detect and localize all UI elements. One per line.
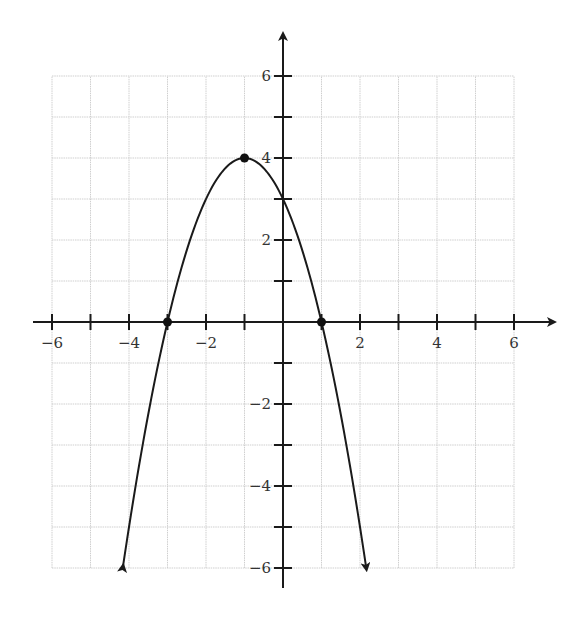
y-tick-label: 6 xyxy=(261,67,271,85)
x-intercept-right-point xyxy=(317,318,326,327)
x-intercept-left-point xyxy=(163,318,172,327)
coordinate-plane: −6−4−2246642−2−4−6 xyxy=(0,0,580,618)
x-tick-label: −4 xyxy=(118,334,140,352)
vertex-point xyxy=(240,154,249,163)
y-tick-label: 4 xyxy=(261,149,271,167)
x-tick-label: 2 xyxy=(355,334,365,352)
y-tick-label: −6 xyxy=(249,559,271,577)
y-tick-label: −2 xyxy=(249,395,271,413)
x-tick-label: 6 xyxy=(509,334,519,352)
x-tick-label: 4 xyxy=(432,334,442,352)
x-tick-label: −2 xyxy=(195,334,217,352)
x-tick-label: −6 xyxy=(41,334,63,352)
y-tick-label: −4 xyxy=(249,477,271,495)
axes xyxy=(33,36,552,588)
y-tick-label: 2 xyxy=(261,231,271,249)
